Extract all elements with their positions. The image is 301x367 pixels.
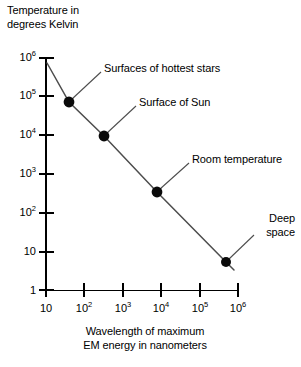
leader-line-hottest-stars [72,72,101,99]
y-tick-label-1e6: 106 [2,52,36,63]
x-tick-label-10: 10 [29,303,63,314]
x-tick-label-1e3: 103 [106,303,140,314]
annotation-surface-of-sun: Surface of Sun [139,96,210,110]
y-tick-label-1e5: 105 [2,90,36,101]
leader-line-surface-of-sun [107,106,136,133]
data-point-hottest-stars [64,97,75,108]
clipped-caption-remnant [8,357,128,366]
y-tick-label-1e3: 103 [2,168,36,179]
data-point-surface-of-sun [99,131,110,142]
annotation-deep-space: Deep space [196,212,295,239]
y-tick-label-1: 1 [2,285,36,296]
y-tick-label-1e4: 104 [2,129,36,140]
x-axis-title: Wavelength of maximum EM energy in nanom… [45,325,245,352]
leader-line-room-temperature [160,163,189,189]
data-point-room-temperature [152,187,163,198]
y-tick-label-10: 10 [2,246,36,257]
figure-temperature-vs-wavelength: Temperature in degrees Kelvin [0,0,301,367]
annotation-hottest-stars: Surfaces of hottest stars [104,62,220,76]
x-tick-label-1e2: 102 [67,303,101,314]
x-tick-label-1e5: 105 [183,303,217,314]
x-tick-label-1e4: 104 [144,303,178,314]
y-tick-label-1e2: 102 [2,207,36,218]
annotation-room-temperature: Room temperature [192,153,282,167]
x-tick-label-1e6: 106 [221,303,255,314]
data-point-deep-space [221,257,231,267]
